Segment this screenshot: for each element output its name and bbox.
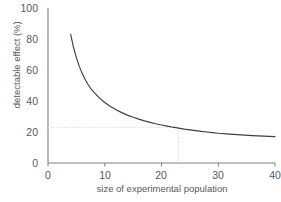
guide-lines-group	[48, 127, 179, 163]
axes-group	[48, 8, 275, 167]
chart-figure: 100 80 60 40 20 0 0 10 20 30 40 detectab…	[0, 0, 281, 202]
y-tick-label-20: 20	[12, 127, 38, 138]
x-tick-label-40: 40	[260, 170, 281, 181]
data-series-line	[71, 34, 275, 136]
y-tick-label-0: 0	[12, 158, 38, 169]
y-axis-title: detectable effect (%)	[12, 10, 22, 120]
x-tick-label-0: 0	[33, 170, 63, 181]
x-axis-title: size of experimental population	[48, 184, 276, 194]
x-tick-label-20: 20	[146, 170, 176, 181]
x-tick-label-10: 10	[90, 170, 120, 181]
x-tick-label-30: 30	[203, 170, 233, 181]
